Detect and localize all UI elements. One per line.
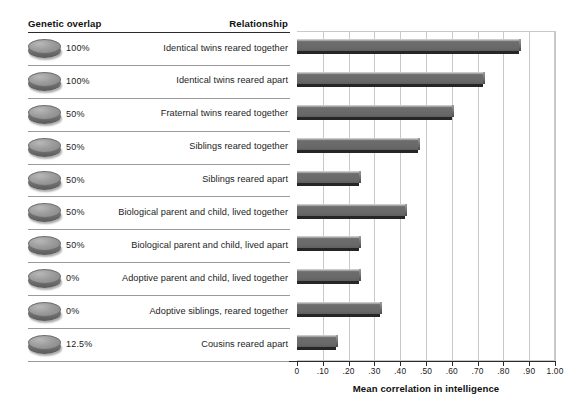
x-axis-tick-label: 1.00 bbox=[546, 366, 563, 376]
x-axis-tick-label: .30 bbox=[368, 366, 380, 376]
bar bbox=[297, 105, 452, 120]
table-row: 12.5%Cousins reared apart bbox=[28, 329, 290, 362]
x-axis-tick-label: .10 bbox=[317, 366, 329, 376]
table-body: 100%Identical twins reared together100%I… bbox=[28, 33, 290, 362]
table-row: 50%Biological parent and child, lived ap… bbox=[28, 230, 290, 263]
relationship-table: Genetic overlap Relationship 100%Identic… bbox=[28, 10, 290, 362]
bar-row bbox=[297, 294, 555, 327]
relationship-label: Biological parent and child, lived toget… bbox=[118, 207, 288, 217]
table-header-row: Genetic overlap Relationship bbox=[28, 10, 290, 33]
x-axis-tick-label: .90 bbox=[523, 366, 535, 376]
bar-row bbox=[297, 228, 555, 261]
genetic-overlap-disc-icon bbox=[28, 236, 61, 257]
x-axis-tick-label: 0 bbox=[295, 366, 300, 376]
bar bbox=[297, 269, 359, 284]
table-row: 50%Siblings reared together bbox=[28, 132, 290, 165]
bar-row bbox=[297, 97, 555, 130]
x-axis-tick-label: .20 bbox=[342, 366, 354, 376]
bar-row bbox=[297, 196, 555, 229]
genetic-overlap-disc-icon bbox=[28, 105, 61, 126]
bar-row bbox=[297, 163, 555, 196]
relationship-label: Siblings reared apart bbox=[202, 174, 288, 184]
genetic-overlap-disc-icon bbox=[28, 72, 61, 93]
bar bbox=[297, 302, 380, 317]
x-axis-title: Mean correlation in intelligence bbox=[297, 383, 555, 394]
bar bbox=[297, 335, 336, 350]
gridline bbox=[555, 31, 556, 361]
bar bbox=[297, 204, 405, 219]
bar bbox=[297, 72, 483, 87]
relationship-label: Siblings reared together bbox=[189, 141, 288, 151]
column-header-genetic-overlap: Genetic overlap bbox=[28, 18, 101, 29]
x-axis-tick-label: .80 bbox=[497, 366, 509, 376]
bar-row bbox=[297, 130, 555, 163]
x-axis-tick-labels: 0.10.20.30.40.50.60.70.80.901.00 bbox=[297, 366, 555, 380]
genetic-overlap-disc-icon bbox=[28, 269, 61, 290]
table-row: 0%Adoptive parent and child, lived toget… bbox=[28, 263, 290, 296]
relationship-label: Biological parent and child, lived apart bbox=[131, 240, 288, 250]
x-axis-tick-label: .40 bbox=[394, 366, 406, 376]
genetic-overlap-value: 50% bbox=[66, 175, 85, 185]
genetic-overlap-value: 50% bbox=[66, 109, 85, 119]
x-axis-tick-label: .70 bbox=[471, 366, 483, 376]
genetic-overlap-disc-icon bbox=[28, 335, 61, 356]
genetic-overlap-disc-icon bbox=[28, 39, 61, 60]
x-axis-tick-label: .50 bbox=[420, 366, 432, 376]
genetic-overlap-value: 12.5% bbox=[66, 339, 93, 349]
bar-row bbox=[297, 261, 555, 294]
genetic-overlap-value: 100% bbox=[66, 43, 90, 53]
relationship-label: Fraternal twins reared together bbox=[161, 108, 288, 118]
table-row: 50%Biological parent and child, lived to… bbox=[28, 197, 290, 230]
table-row: 0%Adoptive siblings, reared together bbox=[28, 296, 290, 329]
genetic-overlap-value: 50% bbox=[66, 142, 85, 152]
genetic-overlap-value: 50% bbox=[66, 207, 85, 217]
column-header-relationship: Relationship bbox=[229, 18, 288, 29]
table-row: 100%Identical twins reared apart bbox=[28, 66, 290, 99]
x-axis-line bbox=[289, 361, 555, 362]
bar-row bbox=[297, 31, 555, 64]
genetic-overlap-value: 50% bbox=[66, 240, 85, 250]
bar bbox=[297, 39, 519, 54]
bar-chart-plot-area bbox=[297, 31, 555, 361]
chart-figure: Genetic overlap Relationship 100%Identic… bbox=[0, 0, 584, 407]
bar-row bbox=[297, 64, 555, 97]
table-row: 100%Identical twins reared together bbox=[28, 33, 290, 66]
relationship-label: Identical twins reared apart bbox=[176, 75, 288, 85]
relationship-label: Identical twins reared together bbox=[163, 43, 288, 53]
genetic-overlap-value: 0% bbox=[66, 273, 79, 283]
genetic-overlap-disc-icon bbox=[28, 171, 61, 192]
table-row: 50%Siblings reared apart bbox=[28, 165, 290, 198]
bar-row bbox=[297, 327, 555, 360]
bar bbox=[297, 138, 418, 153]
table-row: 50%Fraternal twins reared together bbox=[28, 99, 290, 132]
bar bbox=[297, 171, 359, 186]
bar bbox=[297, 236, 359, 251]
relationship-label: Cousins reared apart bbox=[201, 339, 288, 349]
genetic-overlap-value: 100% bbox=[66, 76, 90, 86]
genetic-overlap-disc-icon bbox=[28, 302, 61, 323]
x-axis-tick-label: .60 bbox=[446, 366, 458, 376]
genetic-overlap-disc-icon bbox=[28, 203, 61, 224]
relationship-label: Adoptive parent and child, lived togethe… bbox=[122, 273, 288, 283]
relationship-label: Adoptive siblings, reared together bbox=[149, 306, 288, 316]
genetic-overlap-value: 0% bbox=[66, 306, 79, 316]
genetic-overlap-disc-icon bbox=[28, 138, 61, 159]
